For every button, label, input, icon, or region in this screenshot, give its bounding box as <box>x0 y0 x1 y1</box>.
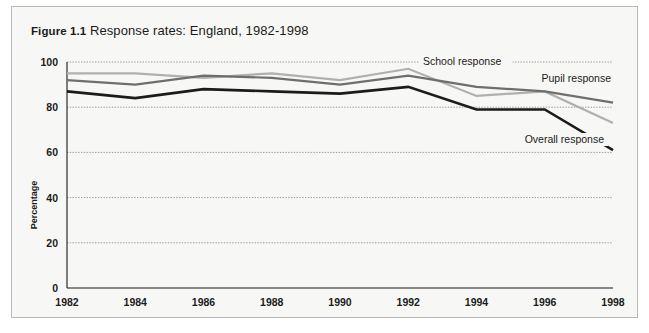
figure-caption: Response rates: England, 1982-1998 <box>90 23 309 38</box>
figure-frame: Figure 1.1 Response rates: England, 1982… <box>11 6 638 318</box>
figure-title: Figure 1.1 Response rates: England, 1982… <box>31 23 309 38</box>
figure-number: Figure 1.1 <box>31 25 86 37</box>
